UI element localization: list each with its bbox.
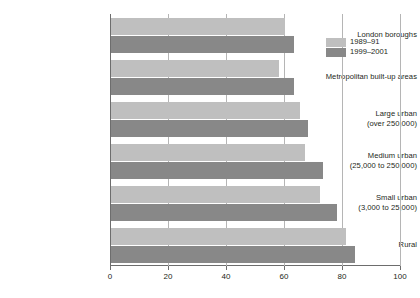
legend: 1989–91 1999–2001	[326, 37, 388, 57]
bar[interactable]	[111, 120, 308, 137]
bar[interactable]	[111, 246, 355, 263]
legend-item[interactable]: 1989–91	[326, 37, 388, 47]
x-tick-label: 0	[90, 272, 130, 281]
x-tick-mark	[284, 266, 285, 270]
legend-item[interactable]: 1999–2001	[326, 47, 388, 57]
x-tick-mark	[226, 266, 227, 270]
bar[interactable]	[111, 102, 300, 119]
bar[interactable]	[111, 36, 294, 53]
bar[interactable]	[111, 18, 285, 35]
bar-group	[111, 225, 401, 267]
bar-group	[111, 57, 401, 99]
legend-label: 1999–2001	[350, 47, 388, 57]
x-tick-label: 100	[380, 272, 420, 281]
category-label-line: Rural	[399, 240, 417, 249]
bar[interactable]	[111, 204, 337, 221]
x-tick-label: 20	[148, 272, 188, 281]
x-tick-label: 80	[322, 272, 362, 281]
bar[interactable]	[111, 228, 346, 245]
x-tick-label: 60	[264, 272, 304, 281]
x-tick-mark	[400, 266, 401, 270]
legend-swatch-icon	[326, 48, 346, 57]
bar-group	[111, 99, 401, 141]
legend-label: 1989–91	[350, 37, 380, 47]
x-tick-label: 40	[206, 272, 246, 281]
bar-group	[111, 183, 401, 225]
bar[interactable]	[111, 144, 305, 161]
x-tick-mark	[110, 266, 111, 270]
x-tick-mark	[342, 266, 343, 270]
bar[interactable]	[111, 60, 279, 77]
bar[interactable]	[111, 162, 323, 179]
bar-group	[111, 141, 401, 183]
bar[interactable]	[111, 186, 320, 203]
bar[interactable]	[111, 78, 294, 95]
legend-swatch-icon	[326, 38, 346, 47]
x-tick-mark	[168, 266, 169, 270]
